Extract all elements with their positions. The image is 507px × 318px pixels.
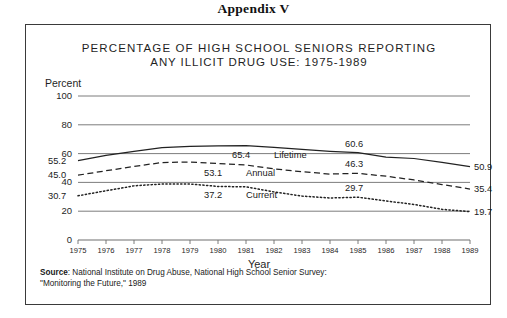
y-tick-label: 100: [48, 90, 72, 101]
source-label: Source: [40, 268, 68, 277]
source-note: Source: National Institute on Drug Abuse…: [40, 268, 470, 289]
x-tick-label: 1977: [121, 246, 147, 255]
start-value-label-lifetime: 55.2: [48, 156, 66, 166]
x-tick-label: 1988: [429, 246, 455, 255]
y-tick-label: 80: [48, 119, 72, 130]
x-tick-label: 1989: [457, 246, 483, 255]
x-tick-label: 1982: [261, 246, 287, 255]
figure-frame: PERCENTAGE OF HIGH SCHOOL SENIORS REPORT…: [25, 24, 491, 305]
x-tick-label: 1976: [93, 246, 119, 255]
end-value-label-annual: 35.4: [474, 184, 492, 194]
end-value-label-current: 19.7: [474, 207, 492, 217]
x-tick-label: 1981: [233, 246, 259, 255]
mid-value-label-lifetime: 65.4: [232, 150, 250, 160]
rightmid-value-label-lifetime: 60.6: [345, 139, 363, 149]
x-tick-label: 1980: [205, 246, 231, 255]
end-value-label-lifetime: 50.9: [474, 162, 492, 172]
series-name-annual: Annual: [246, 168, 275, 178]
x-tick-label: 1979: [177, 246, 203, 255]
appendix-title: Appendix V: [0, 1, 507, 17]
x-axis-ticks: [78, 240, 470, 244]
x-tick-label: 1987: [401, 246, 427, 255]
series-name-lifetime: Lifetime: [274, 150, 307, 160]
source-body: : National Institute on Drug Abuse, Nati…: [68, 268, 327, 277]
x-tick-label: 1984: [317, 246, 343, 255]
y-tick-label: 20: [48, 205, 72, 216]
start-value-label-annual: 45.0: [48, 170, 66, 180]
x-tick-label: 1985: [345, 246, 371, 255]
series-name-current: Current: [246, 190, 277, 200]
y-tick-label: 0: [48, 234, 72, 245]
rightmid-value-label-annual: 46.3: [345, 159, 363, 169]
mid-value-label-current: 37.2: [204, 190, 222, 200]
mid-value-label-annual: 53.1: [204, 168, 222, 178]
source-body-line-2: "Monitoring the Future," 1989: [40, 279, 470, 290]
x-tick-label: 1975: [65, 246, 91, 255]
x-tick-label: 1986: [373, 246, 399, 255]
start-value-label-current: 30.7: [48, 191, 66, 201]
x-tick-label: 1978: [149, 246, 175, 255]
rightmid-value-label-current: 29.7: [345, 183, 363, 193]
x-tick-label: 1983: [289, 246, 315, 255]
